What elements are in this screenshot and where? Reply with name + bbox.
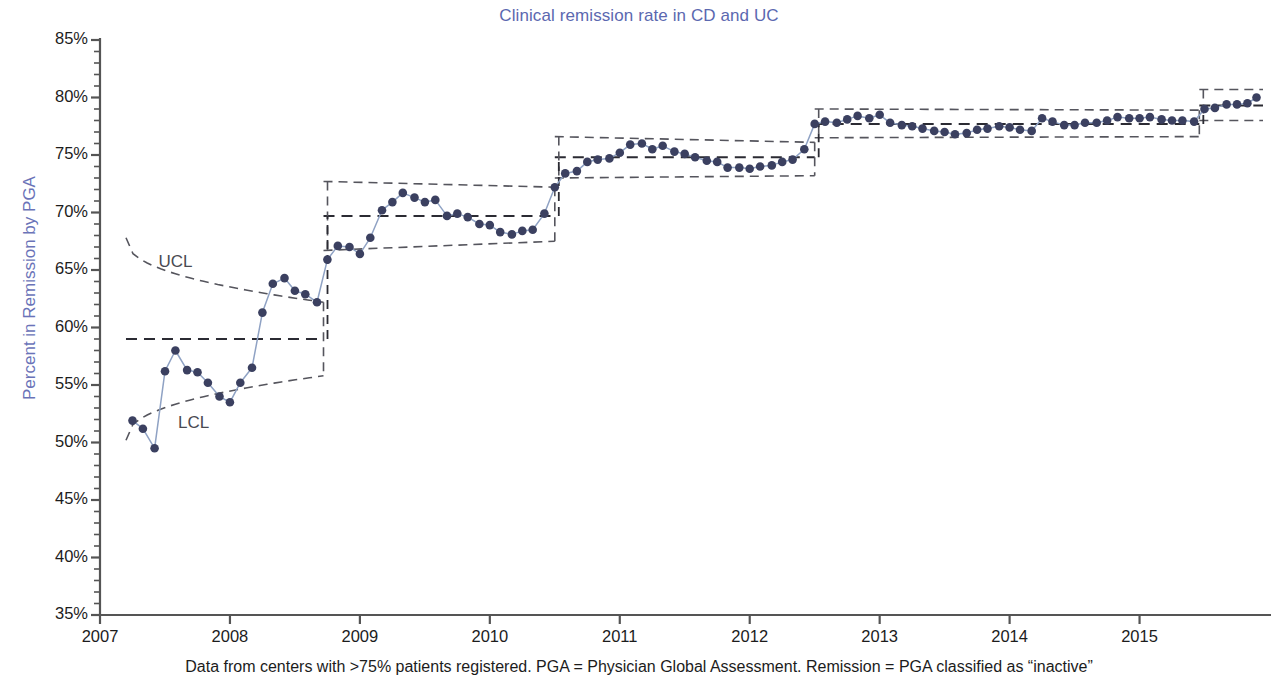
data-point[interactable] [973, 125, 982, 134]
data-point[interactable] [518, 227, 527, 236]
data-point[interactable] [540, 209, 549, 218]
data-point[interactable] [226, 398, 235, 407]
data-point[interactable] [1200, 105, 1209, 114]
data-point[interactable] [821, 117, 830, 126]
data-point[interactable] [378, 206, 387, 215]
data-point[interactable] [638, 139, 647, 148]
data-point[interactable] [703, 157, 712, 166]
data-point[interactable] [583, 158, 592, 167]
data-point[interactable] [1157, 115, 1166, 124]
data-point[interactable] [280, 274, 289, 283]
data-point[interactable] [1146, 113, 1155, 122]
data-point[interactable] [334, 242, 343, 251]
data-point[interactable] [810, 120, 819, 129]
data-point[interactable] [496, 228, 505, 237]
data-point[interactable] [1168, 116, 1177, 125]
data-point[interactable] [886, 119, 895, 128]
data-point[interactable] [800, 145, 809, 154]
data-point[interactable] [1048, 117, 1057, 126]
data-point[interactable] [616, 148, 625, 157]
data-point[interactable] [1190, 117, 1199, 126]
data-point[interactable] [1005, 123, 1014, 132]
data-point[interactable] [236, 378, 245, 387]
data-point[interactable] [486, 221, 495, 230]
data-point[interactable] [204, 378, 213, 387]
data-point[interactable] [1038, 114, 1047, 123]
data-point[interactable] [1252, 93, 1261, 102]
data-point[interactable] [626, 140, 635, 149]
data-point[interactable] [1243, 99, 1252, 108]
data-point[interactable] [356, 250, 365, 259]
data-point[interactable] [1027, 127, 1036, 136]
data-point[interactable] [723, 163, 732, 172]
data-point[interactable] [1092, 119, 1101, 128]
data-point[interactable] [1125, 114, 1134, 123]
data-point[interactable] [508, 230, 517, 239]
data-point[interactable] [768, 161, 777, 170]
data-point[interactable] [962, 129, 971, 138]
data-point[interactable] [366, 234, 375, 243]
data-point[interactable] [1113, 113, 1122, 122]
data-point[interactable] [1135, 114, 1144, 123]
data-point[interactable] [658, 142, 667, 151]
data-point[interactable] [788, 155, 797, 164]
data-point[interactable] [908, 122, 917, 131]
data-point[interactable] [150, 444, 159, 453]
data-point[interactable] [875, 111, 884, 120]
data-point[interactable] [853, 112, 862, 121]
data-point[interactable] [1178, 116, 1187, 125]
data-point[interactable] [388, 198, 397, 207]
data-point[interactable] [930, 127, 939, 136]
data-point[interactable] [918, 124, 927, 133]
data-point[interactable] [291, 286, 300, 295]
data-point[interactable] [1016, 125, 1025, 134]
data-point[interactable] [735, 163, 744, 172]
data-point[interactable] [301, 290, 310, 299]
data-point[interactable] [778, 158, 787, 167]
data-point[interactable] [951, 130, 960, 139]
data-point[interactable] [605, 154, 614, 163]
data-point[interactable] [1070, 121, 1079, 130]
data-point[interactable] [1060, 121, 1069, 130]
data-point[interactable] [161, 367, 170, 376]
data-point[interactable] [648, 145, 657, 154]
data-point[interactable] [193, 368, 202, 377]
data-point[interactable] [1211, 104, 1220, 113]
data-point[interactable] [833, 119, 842, 128]
data-point[interactable] [463, 213, 472, 222]
data-point[interactable] [323, 255, 332, 264]
data-point[interactable] [691, 153, 700, 162]
data-point[interactable] [475, 220, 484, 229]
data-point[interactable] [593, 155, 602, 164]
data-point[interactable] [843, 115, 852, 124]
data-point[interactable] [313, 298, 322, 307]
data-point[interactable] [1103, 116, 1112, 125]
data-point[interactable] [756, 162, 765, 171]
data-point[interactable] [898, 121, 907, 130]
data-point[interactable] [410, 193, 419, 202]
data-point[interactable] [128, 416, 137, 425]
data-point[interactable] [983, 124, 992, 133]
data-point[interactable] [248, 364, 257, 373]
data-point[interactable] [171, 346, 180, 355]
data-point[interactable] [453, 209, 462, 218]
data-point[interactable] [1222, 100, 1231, 109]
data-point[interactable] [573, 167, 582, 176]
data-point[interactable] [139, 424, 148, 433]
data-point[interactable] [215, 392, 224, 401]
data-point[interactable] [1081, 119, 1090, 128]
data-point[interactable] [995, 122, 1004, 131]
data-point[interactable] [431, 196, 440, 205]
data-point[interactable] [561, 169, 570, 178]
data-point[interactable] [443, 212, 452, 221]
data-point[interactable] [1233, 100, 1242, 109]
data-point[interactable] [745, 165, 754, 174]
data-point[interactable] [345, 243, 354, 252]
data-point[interactable] [528, 226, 537, 235]
data-point[interactable] [940, 128, 949, 137]
data-point[interactable] [551, 183, 560, 192]
data-point[interactable] [183, 366, 192, 375]
data-point[interactable] [421, 198, 430, 207]
data-point[interactable] [680, 150, 689, 159]
data-point[interactable] [269, 280, 278, 289]
